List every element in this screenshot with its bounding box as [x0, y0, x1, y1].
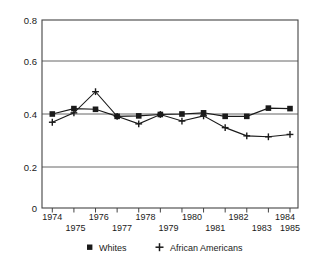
data-point-whites-1984 — [266, 105, 272, 111]
x-tick-label-1978: 1978 — [135, 212, 155, 222]
y-tick-label-0-6: 0.6 — [24, 56, 37, 67]
x-tick-label-1979: 1979 — [159, 223, 179, 233]
x-tick-label-1976: 1976 — [89, 212, 109, 222]
x-tick-label-1984: 1984 — [275, 212, 295, 222]
y-tick-label-0: 0 — [32, 203, 37, 214]
chart-container: 0.8 0.6 0.4 0.2 0 1974 1976 1978 1980 19… — [0, 0, 314, 265]
y-tick-label-0-4: 0.4 — [24, 109, 37, 120]
x-tick-label-1974: 1974 — [42, 212, 62, 222]
x-tick-label-1982: 1982 — [228, 212, 248, 222]
x-tick-label-1980: 1980 — [182, 212, 202, 222]
line-chart: 0.8 0.6 0.4 0.2 0 1974 1976 1978 1980 19… — [0, 0, 314, 265]
y-tick-label-0-8: 0.8 — [24, 15, 37, 26]
data-point-whites-1976 — [93, 107, 99, 113]
legend-marker-square-icon — [87, 245, 92, 250]
y-tick-label-0-2: 0.2 — [24, 162, 37, 173]
legend-label-african-americans: African Americans — [170, 243, 243, 253]
data-point-whites-1985 — [287, 106, 293, 112]
data-point-whites-1978 — [136, 113, 142, 119]
data-point-whites-1980 — [179, 111, 185, 117]
legend-label-whites: Whites — [99, 243, 127, 253]
data-point-whites-1983 — [244, 114, 250, 120]
x-tick-label-1981: 1981 — [205, 223, 225, 233]
data-point-whites-1982 — [222, 114, 228, 120]
x-tick-label-1975: 1975 — [65, 223, 85, 233]
x-tick-label-1977: 1977 — [112, 223, 132, 233]
data-point-whites-1974 — [50, 111, 56, 117]
x-tick-label-1983: 1983 — [252, 223, 272, 233]
x-tick-label-1985: 1985 — [280, 223, 300, 233]
